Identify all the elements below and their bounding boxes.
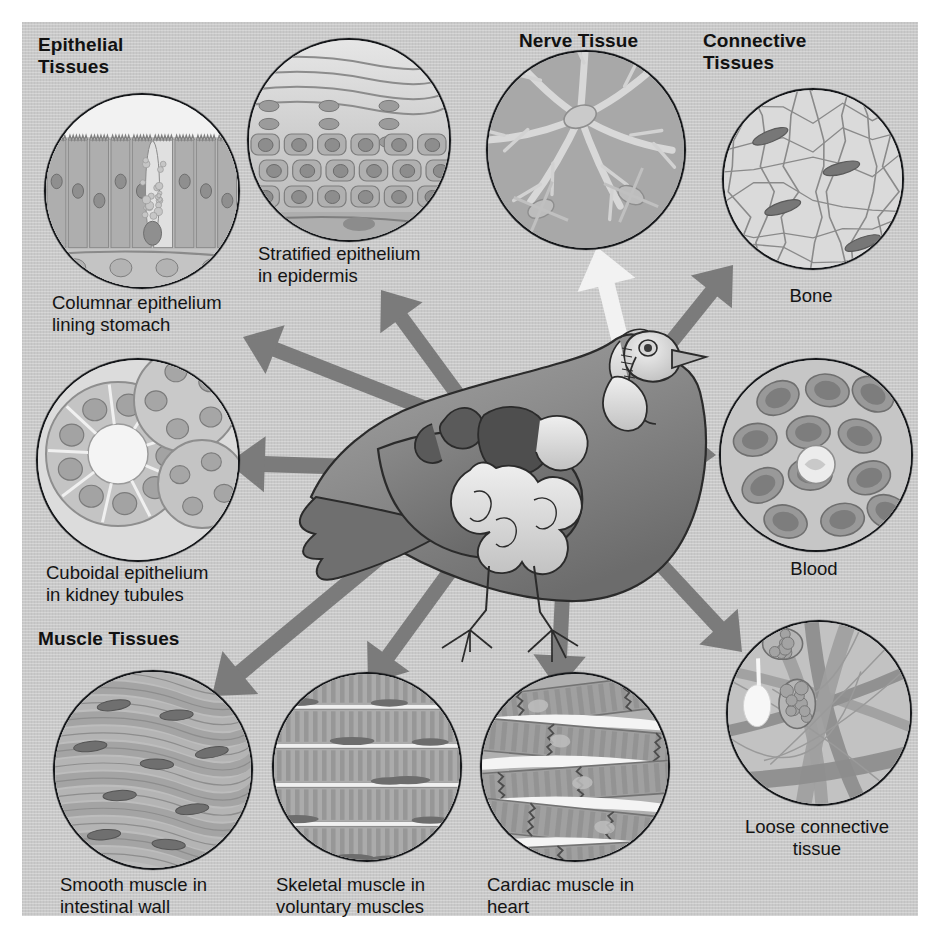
tissue-circle-blood (719, 358, 913, 552)
tissue-circle-skeletal (272, 672, 462, 862)
tissue-caption-smooth: Smooth muscle in intestinal wall (60, 874, 290, 918)
tissue-circle-nerve (486, 50, 686, 250)
tissue-circle-bone (722, 88, 904, 270)
tissue-caption-cardiac: Cardiac muscle in heart (487, 874, 717, 918)
tissue-types-figure: Epithelial TissuesNerve TissueConnective… (0, 0, 940, 949)
arrow-to-stratified (380, 290, 500, 452)
group-header-nerve: Nerve Tissue (519, 30, 638, 52)
arrow-to-blood (631, 428, 716, 480)
arrow-to-nerve (578, 247, 636, 348)
arrow-to-cardiac (533, 540, 585, 690)
tissue-circle-columnar (44, 93, 240, 289)
tissue-circle-cardiac (480, 672, 670, 862)
arrow-to-bone (623, 265, 733, 402)
tissue-caption-stratified: Stratified epithelium in epidermis (258, 243, 488, 287)
tissue-caption-columnar: Columnar epithelium lining stomach (52, 292, 282, 336)
arrow-to-loose (610, 510, 742, 652)
tissue-caption-bone: Bone (722, 285, 900, 307)
tissue-caption-cuboidal: Cuboidal epithelium in kidney tubules (46, 562, 286, 606)
group-header-epithelial: Epithelial Tissues (38, 34, 123, 79)
group-header-connective: Connective Tissues (703, 30, 806, 75)
tissue-circle-loose (726, 620, 912, 806)
tissue-caption-loose: Loose connective tissue (706, 816, 928, 860)
tissue-caption-skeletal: Skeletal muscle in voluntary muscles (276, 874, 516, 918)
tissue-circle-stratified (247, 38, 451, 242)
tissue-circle-smooth (53, 670, 253, 870)
group-header-muscle: Muscle Tissues (38, 628, 180, 650)
tissue-caption-blood: Blood (719, 558, 909, 580)
tissue-circle-cuboidal (36, 358, 240, 562)
arrow-to-cuboidal (228, 436, 448, 492)
